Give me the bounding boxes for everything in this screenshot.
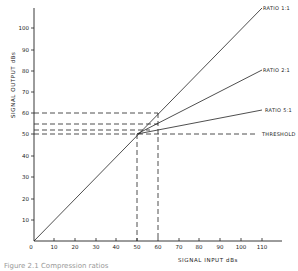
svg-text:80: 80 bbox=[22, 68, 29, 74]
svg-text:20: 20 bbox=[22, 196, 29, 202]
ratio-1-1-line bbox=[34, 8, 262, 241]
ratio-5-1-label: RATIO 5:1 bbox=[265, 107, 292, 113]
y-axis-title: SIGNAL OUTPUT dBs bbox=[10, 51, 16, 118]
svg-text:30: 30 bbox=[22, 174, 29, 180]
svg-text:10: 10 bbox=[22, 217, 29, 223]
ratio-2-1-line bbox=[137, 70, 262, 134]
compression-chart: 10 20 30 40 50 60 70 80 90 100 0 10 20 3… bbox=[0, 0, 298, 271]
svg-text:30: 30 bbox=[93, 244, 100, 250]
svg-text:40: 40 bbox=[22, 153, 29, 159]
ratio-2-1-label: RATIO 2:1 bbox=[263, 67, 290, 73]
y-tick-labels: 10 20 30 40 50 60 70 80 90 100 bbox=[19, 25, 30, 223]
svg-text:100: 100 bbox=[19, 25, 30, 31]
svg-text:10: 10 bbox=[51, 244, 58, 250]
svg-text:0: 0 bbox=[29, 244, 33, 250]
svg-text:50: 50 bbox=[22, 131, 29, 137]
svg-text:70: 70 bbox=[22, 89, 29, 95]
x-tick-labels: 0 10 20 30 40 50 60 70 80 90 100 110 bbox=[29, 244, 267, 250]
ratio-1-1-label: RATIO 1:1 bbox=[263, 5, 290, 11]
svg-text:70: 70 bbox=[176, 244, 183, 250]
svg-text:60: 60 bbox=[155, 244, 162, 250]
svg-text:60: 60 bbox=[22, 110, 29, 116]
ratio-lines bbox=[34, 8, 262, 241]
svg-text:20: 20 bbox=[72, 244, 79, 250]
x-axis-title: SIGNAL INPUT dBs bbox=[178, 257, 238, 263]
svg-text:90: 90 bbox=[217, 244, 224, 250]
ratio-5-1-line bbox=[137, 110, 262, 134]
svg-text:100: 100 bbox=[236, 244, 247, 250]
threshold-label: THRESHOLD bbox=[261, 131, 296, 137]
svg-text:40: 40 bbox=[113, 244, 120, 250]
svg-text:50: 50 bbox=[134, 244, 141, 250]
svg-text:110: 110 bbox=[257, 244, 268, 250]
svg-text:90: 90 bbox=[22, 47, 29, 53]
figure-caption: Figure 2.1 Compression ratios bbox=[4, 262, 108, 270]
svg-text:80: 80 bbox=[196, 244, 203, 250]
